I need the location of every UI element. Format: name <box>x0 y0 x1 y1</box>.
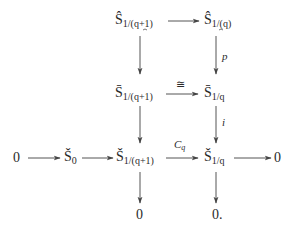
node-s-check-q-plus-1: Š1/(q+1) <box>116 150 154 166</box>
node-subscript: 1/q <box>212 91 225 102</box>
node-base: Ŝ <box>115 12 123 27</box>
node-base: S̄ <box>115 85 123 100</box>
node-s-check-0: Š0 <box>64 150 77 166</box>
label-isomorphism: ≅ <box>176 79 185 90</box>
node-base: S̄ <box>204 85 212 100</box>
node-base: Š <box>116 149 124 164</box>
node-zero-below-right: 0. <box>212 208 223 222</box>
node-s-hat-q: Ŝ1/(q) <box>204 13 231 29</box>
node-zero-left: 0 <box>13 151 20 165</box>
node-zero-below-left: 0 <box>136 208 143 222</box>
diagram-arrows <box>0 0 295 228</box>
label-cq-subscript: q <box>181 143 185 152</box>
node-subscript: 1/(q+1) <box>123 18 153 29</box>
node-subscript: 0 <box>72 155 77 166</box>
hook-mark-left <box>143 29 147 30</box>
node-s-check-q: Š1/q <box>204 150 225 166</box>
node-zero-right: 0 <box>274 151 281 165</box>
hook-mark-right <box>219 29 223 30</box>
label-cq: Cq <box>174 139 185 152</box>
node-s-bar-q: S̄1/q <box>204 86 225 102</box>
node-base: Š <box>204 149 212 164</box>
node-subscript: 1/q <box>212 155 225 166</box>
node-subscript: 1/(q+1) <box>123 91 153 102</box>
node-s-hat-q-plus-1: Ŝ1/(q+1) <box>115 13 153 29</box>
node-subscript: 1/(q+1) <box>124 155 154 166</box>
label-p: p <box>222 51 228 62</box>
label-i: i <box>222 117 225 128</box>
node-base: Š <box>64 149 72 164</box>
node-s-bar-q-plus-1: S̄1/(q+1) <box>115 86 153 102</box>
node-base: Ŝ <box>204 12 212 27</box>
node-subscript: 1/(q) <box>212 18 231 29</box>
